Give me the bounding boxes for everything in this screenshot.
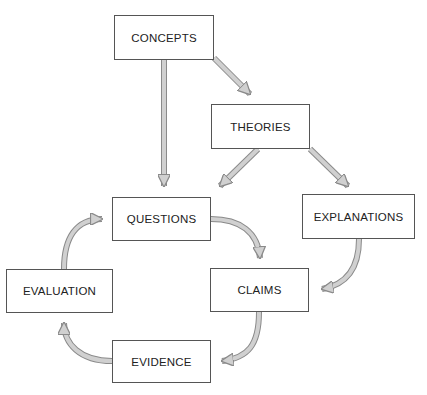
node-label: THEORIES [230, 121, 290, 133]
node-claims: CLAIMS [210, 268, 309, 312]
node-evaluation: EVALUATION [6, 269, 113, 313]
node-concepts: CONCEPTS [114, 15, 214, 60]
node-label: CLAIMS [237, 284, 281, 296]
node-evidence: EVIDENCE [112, 340, 211, 383]
node-label: EXPLANATIONS [314, 211, 404, 223]
node-label: EVALUATION [23, 285, 96, 297]
node-explanations: EXPLANATIONS [302, 194, 415, 239]
node-label: QUESTIONS [127, 213, 197, 225]
node-label: CONCEPTS [131, 32, 197, 44]
node-theories: THEORIES [211, 104, 310, 149]
arrow-evaluation-questions [64, 219, 102, 269]
node-questions: QUESTIONS [112, 197, 211, 241]
node-label: EVIDENCE [131, 356, 191, 368]
